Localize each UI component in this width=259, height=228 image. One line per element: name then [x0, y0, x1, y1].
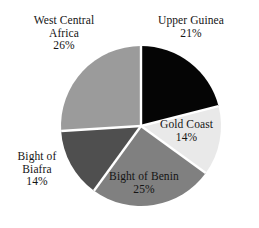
pie-label-bight-of-biafra-percent: 14% — [4, 175, 70, 188]
pie-label-bight-of-biafra-name-line2: Biafra — [4, 163, 70, 176]
pie-label-upper-guinea-percent: 21% — [158, 27, 224, 40]
pie-label-gold-coast-name: Gold Coast — [160, 118, 213, 131]
pie-slice-west-central-africa[interactable] — [61, 46, 141, 131]
pie-label-upper-guinea: Upper Guinea 21% — [158, 14, 224, 39]
pie-label-bight-of-biafra: Bight of Biafra 14% — [4, 150, 70, 188]
pie-label-gold-coast-percent: 14% — [160, 131, 213, 144]
pie-label-west-central-africa: West Central Africa 26% — [18, 14, 110, 52]
pie-chart: Upper Guinea 21% West Central Africa 26%… — [0, 0, 259, 228]
pie-label-west-central-africa-name-line1: West Central — [18, 14, 110, 27]
pie-label-upper-guinea-name: Upper Guinea — [158, 14, 224, 27]
pie-label-bight-of-biafra-name-line1: Bight of — [4, 150, 70, 163]
pie-label-gold-coast: Gold Coast 14% — [160, 118, 213, 143]
pie-label-bight-of-benin-percent: 25% — [98, 183, 190, 196]
pie-label-west-central-africa-name-line2: Africa — [18, 27, 110, 40]
pie-label-bight-of-benin: Bight of Benin 25% — [98, 170, 190, 195]
pie-label-west-central-africa-percent: 26% — [18, 39, 110, 52]
pie-label-bight-of-benin-name: Bight of Benin — [98, 170, 190, 183]
